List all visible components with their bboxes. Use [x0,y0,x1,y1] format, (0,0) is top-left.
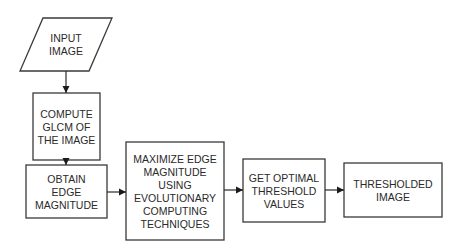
node-input: INPUTIMAGE [20,18,112,71]
arrowhead-icon [337,187,344,194]
node-label-line: VALUES [264,198,305,210]
node-label-line: GLCM OF [43,121,91,133]
node-label-line: MAGNITUDE [144,166,207,178]
flow-arrow [107,189,126,196]
flowchart-canvas: INPUTIMAGECOMPUTEGLCM OFTHE IMAGEOBTAINE… [0,0,463,249]
node-label-line: GET OPTIMAL [249,172,320,184]
node-edge: OBTAINEDGEMAGNITUDE [26,165,107,218]
node-label-line: IMAGE [376,191,410,203]
node-label-line: COMPUTE [40,108,93,120]
flow-arrow [63,158,70,165]
node-label-line: INPUT [50,32,82,44]
flowchart: INPUTIMAGECOMPUTEGLCM OFTHE IMAGEOBTAINE… [0,0,463,249]
arrowhead-icon [119,189,126,196]
node-label-line: EDGE [52,186,82,198]
node-glcm: COMPUTEGLCM OFTHE IMAGE [33,93,100,160]
node-label-line: IMAGE [49,45,83,57]
node-label-line: THRESHOLDED [353,178,433,190]
arrowhead-icon [63,158,70,165]
node-label-line: USING [158,179,191,191]
node-label-line: OBTAIN [47,173,85,185]
flow-arrow [224,187,243,194]
node-label-line: EVOLUTIONARY [134,192,216,204]
node-label-line: THE IMAGE [38,134,96,146]
node-label-line: TECHNIQUES [141,218,210,230]
node-label-line: COMPUTING [143,205,207,217]
flow-arrow [63,71,70,93]
arrowhead-icon [236,187,243,194]
node-optimal: GET OPTIMALTHRESHOLDVALUES [243,159,325,222]
flow-arrow [325,187,344,194]
node-label-line: MAXIMIZE EDGE [133,153,216,165]
arrowhead-icon [63,86,70,93]
node-label-line: THRESHOLD [252,185,317,197]
node-label-line: MAGNITUDE [35,199,98,211]
node-output: THRESHOLDEDIMAGE [344,163,442,217]
node-maximize: MAXIMIZE EDGEMAGNITUDEUSINGEVOLUTIONARYC… [126,142,224,240]
